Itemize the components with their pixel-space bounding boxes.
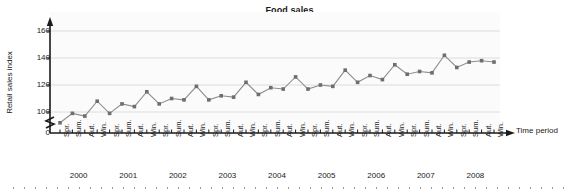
x-season-label: Spr. xyxy=(162,124,170,137)
x-season-label: Aut. xyxy=(286,124,294,137)
x-season-label: Aut. xyxy=(88,124,96,137)
x-season-label: Win. xyxy=(398,122,406,137)
data-point xyxy=(331,85,335,89)
x-season-label: Aut. xyxy=(485,124,493,137)
x-year-label: 2001 xyxy=(114,172,142,180)
x-year-label: 2007 xyxy=(412,172,440,180)
x-season-label: Sum. xyxy=(373,119,381,137)
x-season-label: Win. xyxy=(447,122,455,137)
data-point xyxy=(368,74,372,78)
x-year-label: 2004 xyxy=(263,172,291,180)
data-point xyxy=(467,60,471,64)
x-season-label: Win. xyxy=(150,122,158,137)
data-point xyxy=(343,68,347,72)
data-point xyxy=(83,114,87,118)
x-season-label: Spr. xyxy=(113,124,121,137)
data-point xyxy=(393,63,397,67)
x-axis-label: Time period xyxy=(516,126,558,135)
data-point xyxy=(157,102,161,106)
data-point xyxy=(281,87,285,91)
data-point xyxy=(219,94,223,98)
x-year-label: 2003 xyxy=(213,172,241,180)
x-axis-arrow xyxy=(506,130,515,136)
data-point xyxy=(108,112,112,116)
data-point xyxy=(170,97,174,101)
x-season-label: Sum. xyxy=(125,119,133,137)
data-point xyxy=(492,60,496,64)
x-season-label: Spr. xyxy=(212,124,220,137)
x-year-label: 2000 xyxy=(65,172,93,180)
x-season-label: Spr. xyxy=(63,124,71,137)
x-season-label: Aut. xyxy=(385,124,393,137)
data-point xyxy=(232,95,236,99)
x-season-label: Spr. xyxy=(311,124,319,137)
x-season-label: Spr. xyxy=(460,124,468,137)
x-season-label: Sum. xyxy=(175,119,183,137)
data-point xyxy=(257,93,261,97)
x-season-label: Aut. xyxy=(137,124,145,137)
x-season-label: Sum. xyxy=(224,119,232,137)
x-season-label: Sum. xyxy=(323,119,331,137)
x-season-label: Win. xyxy=(348,122,356,137)
x-season-label: Aut. xyxy=(336,124,344,137)
x-season-label: Sum. xyxy=(75,119,83,137)
x-year-label: 2005 xyxy=(313,172,341,180)
data-point xyxy=(356,81,360,85)
x-season-label: Win. xyxy=(199,122,207,137)
x-season-label: Sum. xyxy=(274,119,282,137)
x-season-label: Aut. xyxy=(187,124,195,137)
data-point xyxy=(455,66,459,70)
data-point xyxy=(244,81,248,85)
data-point xyxy=(480,59,484,63)
x-season-label: Spr. xyxy=(261,124,269,137)
data-point xyxy=(195,85,199,89)
data-point xyxy=(71,112,75,116)
bottom-dotted-rule xyxy=(8,187,571,189)
data-point xyxy=(120,102,124,106)
x-season-label: Win. xyxy=(100,122,108,137)
x-year-label: 2002 xyxy=(164,172,192,180)
data-point xyxy=(381,78,385,82)
x-season-label: Sum. xyxy=(472,119,480,137)
data-point xyxy=(269,86,273,90)
data-point xyxy=(294,75,298,79)
x-season-label: Aut. xyxy=(435,124,443,137)
data-point xyxy=(207,98,211,102)
x-season-label: Win. xyxy=(299,122,307,137)
data-point xyxy=(133,105,137,109)
data-point xyxy=(418,70,422,74)
data-point xyxy=(145,90,149,94)
food-sales-chart: Food sales Retail sales index 0100120140… xyxy=(0,0,579,195)
data-point xyxy=(405,72,409,76)
x-season-label: Spr. xyxy=(361,124,369,137)
x-season-label: Win. xyxy=(497,122,505,137)
x-year-label: 2008 xyxy=(461,172,489,180)
data-point xyxy=(95,99,99,103)
plot-svg xyxy=(0,0,579,195)
x-season-label: Sum. xyxy=(423,119,431,137)
x-season-label: Spr. xyxy=(410,124,418,137)
data-point xyxy=(430,71,434,75)
data-point xyxy=(319,83,323,87)
x-season-label: Aut. xyxy=(237,124,245,137)
data-point xyxy=(306,87,310,91)
data-point xyxy=(182,98,186,102)
x-year-label: 2006 xyxy=(362,172,390,180)
x-season-label: Win. xyxy=(249,122,257,137)
data-point xyxy=(443,54,447,58)
